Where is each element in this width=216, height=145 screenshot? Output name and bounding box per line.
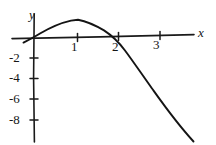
- y-tick-label-minus-4: -4: [9, 71, 20, 84]
- y-tick-label-minus-8: -8: [9, 113, 20, 126]
- x-tick-label-1: 1: [71, 40, 78, 53]
- graph-screenshot: 1 2 3 -2 -4 -6 -8 x y: [0, 0, 216, 145]
- x-axis-line: [12, 35, 194, 39]
- x-axis-label: x: [198, 26, 204, 39]
- y-axis-label: y: [29, 8, 35, 21]
- x-tick-label-3: 3: [153, 38, 160, 51]
- y-tick-label-minus-2: -2: [9, 51, 20, 64]
- y-tick-label-minus-6: -6: [9, 92, 20, 105]
- x-tick-label-2: 2: [112, 40, 119, 53]
